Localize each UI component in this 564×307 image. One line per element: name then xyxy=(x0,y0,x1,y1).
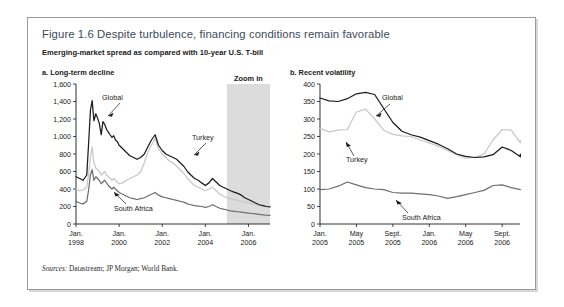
y-tick-label: 250 xyxy=(303,133,315,141)
x-tick-label-month: May xyxy=(459,230,473,238)
label-south-africa: South Africa xyxy=(114,204,153,213)
label-turkey: Turkey xyxy=(346,155,368,164)
figure-screenshot: Figure 1.6 Despite turbulence, financing… xyxy=(0,0,564,307)
y-tick-label: 200 xyxy=(303,151,315,159)
x-tick-label-month: Sept. xyxy=(494,230,511,238)
x-tick-label-year: 2006 xyxy=(494,239,510,247)
zoom-in-label: Zoom in xyxy=(234,74,263,83)
x-tick-label-month: Sept. xyxy=(385,230,402,238)
axis-lines xyxy=(320,84,520,224)
sources-note: Sources: Datastream; JP Morgan; World Ba… xyxy=(42,264,178,273)
figure-panel: Figure 1.6 Despite turbulence, financing… xyxy=(27,17,536,290)
sources-text: Datastream; JP Morgan; World Bank. xyxy=(67,264,178,273)
y-tick-label: 800 xyxy=(59,151,71,159)
chart-a-svg: Zoom in02004006008001,0001,2001,4001,600… xyxy=(42,78,278,258)
x-tick-label-year: 2002 xyxy=(154,239,170,247)
chart-b-plot: 050100150200250300350400Jan.2005May2005S… xyxy=(290,78,526,258)
y-tick-label: 350 xyxy=(303,98,315,106)
y-tick-label: 0 xyxy=(67,221,71,229)
chart-a-title: a. Long-term decline xyxy=(42,68,114,77)
x-tick-label-year: 2000 xyxy=(111,239,127,247)
x-tick-label-year: 2006 xyxy=(421,239,437,247)
x-tick-label-year: 2005 xyxy=(312,239,328,247)
x-tick-label-month: Jan. xyxy=(199,230,212,238)
x-tick-label-month: Jan. xyxy=(112,230,125,238)
y-tick-label: 1,000 xyxy=(53,133,71,141)
y-tick-label: 0 xyxy=(311,221,315,229)
x-tick-label-year: 2004 xyxy=(197,239,213,247)
x-tick-label-year: 2005 xyxy=(385,239,401,247)
y-tick-label: 100 xyxy=(303,186,315,194)
chart-panel-a: a. Long-term decline Zoom in020040060080… xyxy=(42,68,274,258)
figure-subtitle: Emerging-market spread as compared with … xyxy=(42,48,263,57)
label-turkey-leader xyxy=(194,143,206,155)
label-south-africa: South Africa xyxy=(402,213,441,222)
sources-label: Sources: xyxy=(42,264,67,273)
label-global-leader xyxy=(108,103,120,116)
series-line-turkey xyxy=(320,109,520,158)
figure-title: Figure 1.6 Despite turbulence, financing… xyxy=(42,28,390,40)
y-tick-label: 1,400 xyxy=(53,98,71,106)
y-tick-label: 150 xyxy=(303,168,315,176)
y-tick-label: 600 xyxy=(59,168,71,176)
y-tick-label: 300 xyxy=(303,116,315,124)
x-tick-label-month: Jan. xyxy=(313,230,326,238)
label-turkey: Turkey xyxy=(192,133,214,142)
y-tick-label: 400 xyxy=(59,186,71,194)
y-tick-label: 50 xyxy=(307,203,315,211)
y-tick-label: 1,200 xyxy=(53,116,71,124)
y-tick-label: 1,600 xyxy=(53,81,71,89)
chart-a-plot: Zoom in02004006008001,0001,2001,4001,600… xyxy=(42,78,278,258)
label-global: Global xyxy=(382,93,403,102)
label-global: Global xyxy=(102,93,123,102)
x-tick-label-month: Jan. xyxy=(156,230,169,238)
x-tick-label-month: May xyxy=(350,230,364,238)
x-tick-label-year: 1998 xyxy=(68,239,84,247)
chart-panel-b: b. Recent volatility 0501001502002503003… xyxy=(290,68,522,258)
x-tick-label-year: 2006 xyxy=(458,239,474,247)
x-tick-label-month: Jan. xyxy=(69,230,82,238)
y-tick-label: 200 xyxy=(59,203,71,211)
series-line-south-africa xyxy=(320,182,520,198)
label-turkey-arrow xyxy=(346,142,351,147)
x-tick-label-year: 2005 xyxy=(349,239,365,247)
x-tick-label-month: Jan. xyxy=(423,230,436,238)
x-tick-label-month: Jan. xyxy=(242,230,255,238)
chart-b-title: b. Recent volatility xyxy=(290,68,355,77)
y-tick-label: 400 xyxy=(303,81,315,89)
label-south-africa-arrow xyxy=(396,200,402,205)
x-tick-label-year: 2006 xyxy=(241,239,257,247)
chart-b-svg: 050100150200250300350400Jan.2005May2005S… xyxy=(290,78,526,258)
